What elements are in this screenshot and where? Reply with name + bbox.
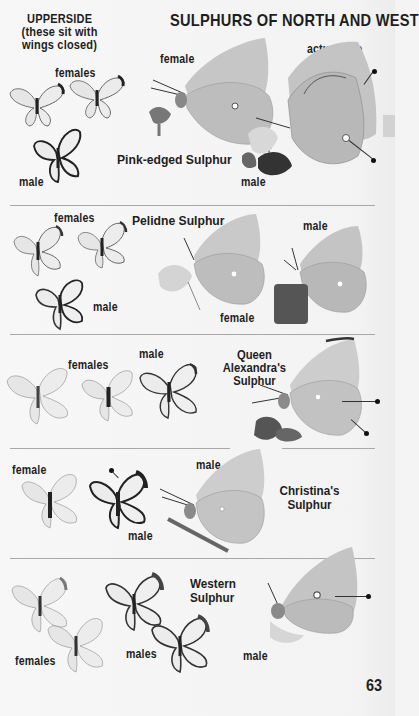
upperside-heading-line: wings closed) (20, 39, 99, 52)
marker-dot (366, 594, 371, 599)
butterfly-upperside-icon (8, 80, 66, 130)
butterfly-upperside-icon (88, 468, 150, 530)
butterfly-upperside-icon (76, 218, 130, 270)
butterfly-upperside-icon (46, 612, 108, 674)
butterfly-side-view-icon (158, 210, 270, 310)
butterfly-side-view-icon (158, 447, 270, 557)
page-number: 63 (366, 676, 382, 696)
section-divider (10, 205, 375, 206)
butterfly-side-view-icon (270, 218, 370, 328)
page-title: SULPHURS OF NORTH AND WEST (170, 11, 419, 31)
butterfly-side-view-icon (252, 545, 362, 650)
label-male: male (128, 530, 153, 543)
thumb-tab (383, 115, 395, 137)
label-male: male (93, 301, 118, 314)
upperside-heading: UPPERSIDE (these sit with wings closed) (20, 13, 99, 52)
label-male: male (243, 650, 268, 663)
species-name: Western Sulphur (190, 577, 236, 605)
section-divider (282, 448, 375, 449)
species-name-line: Christina's (278, 484, 341, 498)
leader-line (335, 596, 369, 597)
butterfly-upperside-icon (34, 275, 88, 331)
species-name-line: Western (190, 577, 236, 591)
butterfly-upperside-icon (12, 222, 66, 278)
marker-dot (364, 431, 369, 436)
species-name: Christina's Sulphur (278, 484, 341, 512)
species-name-line: Sulphur (190, 591, 236, 605)
butterfly-upperside-icon (20, 468, 82, 530)
butterfly-upperside-icon (68, 72, 126, 122)
butterfly-upperside-icon (5, 360, 71, 426)
butterfly-upperside-icon (80, 365, 136, 423)
marker-dot (375, 399, 380, 404)
leader-line (342, 401, 378, 402)
butterfly-upperside-icon (32, 126, 84, 184)
marker-dot (372, 69, 377, 74)
butterfly-side-view-icon (250, 337, 370, 447)
butterfly-side-view-icon (208, 38, 383, 198)
marker-dot (371, 158, 376, 163)
label-female: female (220, 312, 255, 325)
section-divider (10, 334, 375, 335)
species-name-line: Sulphur (278, 498, 341, 512)
butterfly-upperside-icon (150, 612, 210, 674)
butterfly-upperside-icon (138, 358, 200, 420)
